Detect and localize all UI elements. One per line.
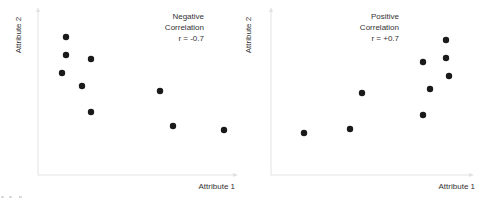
- data-point: [427, 86, 433, 92]
- data-point: [347, 126, 353, 132]
- data-point: [443, 55, 449, 61]
- data-point: [359, 90, 365, 96]
- data-point: [420, 59, 426, 65]
- x-axis-arrow-icon: [469, 173, 474, 177]
- annotation-r-value: r = +0.7: [360, 33, 399, 44]
- cropped-edge-artifacts: [0, 196, 30, 200]
- data-point: [301, 130, 307, 136]
- data-point: [443, 37, 449, 43]
- x-axis-label: Attribute 1: [439, 182, 475, 192]
- annotation-line-1: Positive: [360, 11, 399, 22]
- data-points: [301, 37, 452, 136]
- y-axis-arrow-icon: [269, 7, 273, 12]
- data-point: [420, 112, 426, 118]
- positive-chart-plot: [0, 0, 481, 202]
- positive-correlation-chart: Attribute 2 Attribute 1 Positive Correla…: [0, 0, 481, 202]
- correlation-annotation: Positive Correlation r = +0.7: [360, 11, 399, 44]
- data-point: [446, 73, 452, 79]
- annotation-line-2: Correlation: [360, 22, 399, 33]
- y-axis-label: Attribute 2: [244, 5, 254, 65]
